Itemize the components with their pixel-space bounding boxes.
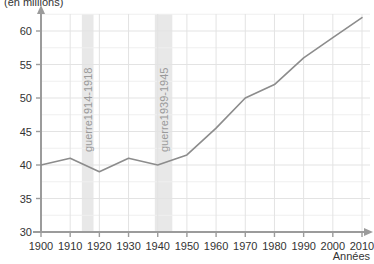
y-tick-label: 40 <box>20 159 32 171</box>
chart-canvas: guerre1914-1918guerre1939-1945 303540455… <box>0 0 374 264</box>
x-tick-label: 1940 <box>145 240 169 252</box>
y-tick-label: 50 <box>20 92 32 104</box>
war-band-label: guerre1939-1945 <box>158 68 170 152</box>
x-axis-arrow <box>364 228 373 236</box>
y-tick-label: 30 <box>20 226 32 238</box>
x-axis-title: Années <box>333 250 370 262</box>
x-tick-label: 1930 <box>116 240 140 252</box>
war-band-label: guerre1914-1918 <box>82 68 94 152</box>
x-tick-label: 1950 <box>175 240 199 252</box>
x-tick-label: 1920 <box>87 240 111 252</box>
y-tick-label: 35 <box>20 193 32 205</box>
x-tick-label: 1900 <box>29 240 53 252</box>
y-tick-labels: 30354045505560 <box>20 25 32 238</box>
x-tick-label: 1980 <box>262 240 286 252</box>
y-tick-label: 45 <box>20 126 32 138</box>
x-tick-label: 1990 <box>291 240 315 252</box>
x-tick-labels: 1900191019201930194019501960197019801990… <box>29 240 374 252</box>
x-tick-label: 1910 <box>58 240 82 252</box>
y-tick-label: 55 <box>20 59 32 71</box>
y-axis-arrow <box>37 5 45 14</box>
x-tick-label: 1960 <box>204 240 228 252</box>
y-tick-label: 60 <box>20 25 32 37</box>
x-tick-label: 1970 <box>233 240 257 252</box>
population-line-chart: (en millions) guerre1914-1918guerre1939-… <box>0 0 374 264</box>
